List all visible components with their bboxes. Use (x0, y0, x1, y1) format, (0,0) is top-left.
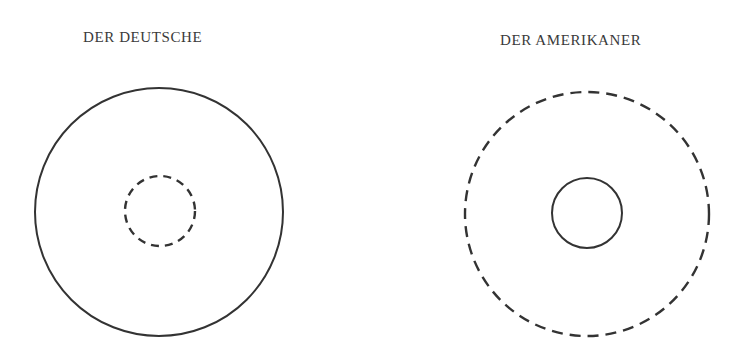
deutsche-outer-circle (35, 88, 283, 336)
deutsche-inner-circle (125, 176, 195, 246)
circles-diagram (0, 0, 741, 347)
amerikaner-inner-circle (552, 178, 622, 248)
amerikaner-outer-circle (465, 92, 709, 336)
